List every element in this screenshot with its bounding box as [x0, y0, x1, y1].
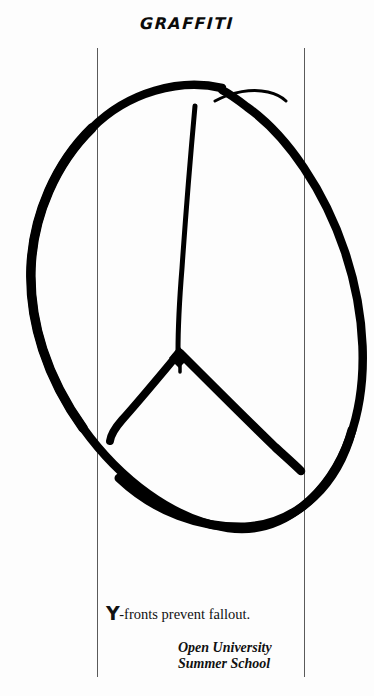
attribution: Open University Summer School — [130, 640, 348, 672]
caption-text: -fronts prevent fallout. — [119, 606, 250, 622]
peace-circle-weight-bottom — [119, 430, 352, 527]
peace-arm-left — [110, 353, 179, 441]
peace-symbol-svg — [0, 0, 374, 560]
peace-arm-right — [180, 353, 301, 471]
attribution-line-1: Open University — [178, 640, 348, 656]
attribution-line-2: Summer School — [178, 656, 348, 672]
caption-dropcap: Y — [106, 602, 119, 624]
peace-stem-stroke — [178, 106, 195, 352]
peace-symbol-artwork — [0, 0, 374, 560]
caption: Y-fronts prevent fallout. — [106, 604, 316, 623]
peace-circle-weight-left — [31, 128, 92, 428]
peace-circle-stroke — [31, 85, 363, 529]
page-canvas: GRAFFITI Y-fronts prevent fallout — [0, 0, 374, 696]
